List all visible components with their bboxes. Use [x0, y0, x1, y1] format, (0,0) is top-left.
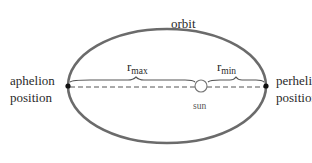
aphelion-label-line1: aphelion — [10, 74, 55, 87]
r-min-brace — [208, 77, 264, 82]
orbit-ellipse — [68, 29, 266, 143]
r-min-label: rmin — [217, 60, 236, 77]
aphelion-point — [65, 83, 70, 88]
r-max-sub: max — [131, 66, 147, 76]
perihelion-label-line1: perhelion — [276, 74, 312, 87]
r-min-sub: min — [221, 66, 236, 76]
r-max-label: rmax — [127, 60, 148, 77]
perihelion-point — [263, 83, 268, 88]
aphelion-label-line2: position — [10, 91, 52, 104]
r-max-brace — [70, 77, 195, 82]
sun-label: sun — [193, 102, 206, 112]
sun-icon — [195, 80, 207, 92]
orbit-label: orbit — [171, 17, 196, 30]
perihelion-label-line2: position — [276, 91, 312, 104]
orbit-diagram: orbit rmax rmin aphelion position perhel… — [0, 0, 312, 163]
